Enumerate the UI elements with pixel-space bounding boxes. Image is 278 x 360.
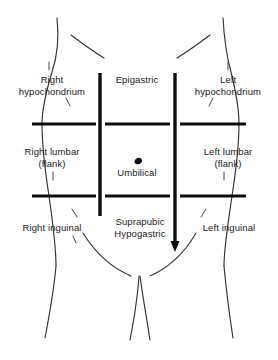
right-leg-outline xyxy=(45,266,56,338)
region-label-right-inguinal: Right inguinal xyxy=(2,222,102,234)
region-label-suprapubic-hypogastric: Suprapubic Hypogastric xyxy=(104,216,176,239)
right-inguinal-crease xyxy=(83,233,131,276)
vertical-plane-right-arrowhead xyxy=(171,241,180,252)
leader-tick-left-inguinal xyxy=(201,209,206,217)
region-label-epigastric: Epigastric xyxy=(104,74,170,86)
leader-tick-left-hypochondrium-lower xyxy=(209,98,213,106)
umbilicus-mark xyxy=(134,158,142,165)
region-label-left-lumbar-flank: Left lumbar (flank) xyxy=(182,146,274,169)
torso-drawing xyxy=(0,0,278,360)
region-label-umbilical: Umbilical xyxy=(104,167,170,179)
leader-tick-right-hypochondrium-lower xyxy=(66,98,70,106)
medial-thigh-left-line xyxy=(130,276,139,340)
region-label-left-hypochondrium: Left hypochondrium xyxy=(180,74,276,97)
leader-tick-right-inguinal xyxy=(72,209,77,217)
region-label-left-inguinal: Left inguinal xyxy=(182,222,276,234)
medial-thigh-right-line xyxy=(140,276,150,340)
abdominal-regions-diagram: Right hypochondrium Epigastric Left hypo… xyxy=(0,0,278,360)
right-costal-margin xyxy=(71,35,104,58)
left-costal-margin xyxy=(177,35,210,58)
leader-tick-right-inguinal-lower xyxy=(73,236,76,243)
region-label-right-lumbar-flank: Right lumbar (flank) xyxy=(6,146,98,169)
left-leg-outline xyxy=(224,266,233,338)
region-label-right-hypochondrium: Right hypochondrium xyxy=(6,74,98,97)
left-inguinal-crease xyxy=(150,233,196,276)
